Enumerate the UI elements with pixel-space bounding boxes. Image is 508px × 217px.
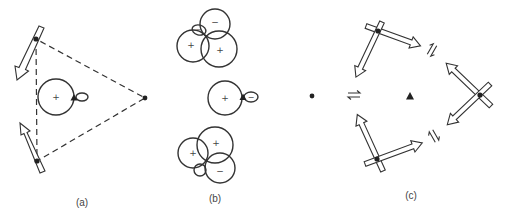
label-a: (a) xyxy=(76,197,88,208)
equilibrium-symbol xyxy=(427,129,441,144)
equilibrium-symbol xyxy=(348,91,360,100)
middle-orbital: + − xyxy=(208,81,258,115)
equilibrium-symbol xyxy=(425,43,439,58)
orbital-lobe xyxy=(76,93,88,101)
plus-sign: + xyxy=(189,148,197,158)
plus-sign: + xyxy=(52,92,60,102)
panel-b: − + + − + − + + − (b) xyxy=(177,9,258,204)
minus-sign: − xyxy=(211,17,219,27)
panel-a: + (a) xyxy=(15,26,147,208)
vertex-node-bottom xyxy=(34,158,39,163)
node-bottom-arrows xyxy=(352,112,424,173)
center-triangle xyxy=(406,92,414,100)
minus-sign: − xyxy=(196,26,202,34)
label-c: (c) xyxy=(405,190,417,201)
plus-sign: + xyxy=(212,138,220,148)
bottom-cluster: + + − xyxy=(178,127,235,183)
figure-canvas: + (a) − + + − + − + + xyxy=(0,0,508,217)
node-right-arrows xyxy=(442,59,495,129)
plus-sign: + xyxy=(187,40,195,50)
node-top-arrows xyxy=(351,19,423,79)
top-cluster: − + + − xyxy=(177,9,237,67)
plus-sign: + xyxy=(216,45,224,55)
minus-sign: − xyxy=(216,166,224,176)
vertex-arrow-top xyxy=(15,26,44,80)
panel-c: (c) xyxy=(310,19,496,201)
vertex-node-top xyxy=(33,36,38,41)
vertex-node-right xyxy=(143,96,148,101)
plus-sign: + xyxy=(221,93,229,103)
label-b: (b) xyxy=(209,193,221,204)
center-dot xyxy=(310,94,315,99)
minus-sign: − xyxy=(248,93,255,102)
vertex-arrow-bottom xyxy=(20,123,45,173)
